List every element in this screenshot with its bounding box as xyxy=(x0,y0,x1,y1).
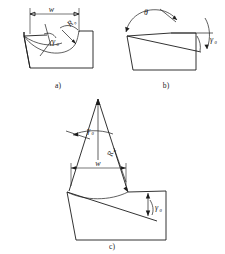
panel-c-label-rake-bottom: γ xyxy=(155,203,159,212)
panel-c-rake-arrow-up xyxy=(146,193,150,198)
panel-a-left-flank xyxy=(24,36,30,68)
panel-b-top-face xyxy=(127,33,171,36)
cutting-tool-geometry-figure: w R n γ 0 a) γ 0 xyxy=(0,0,225,254)
panel-b-label-rake-group: γ 0 xyxy=(210,35,218,45)
panel-c-tool-body xyxy=(67,191,166,240)
panel-b-label-theta: θ xyxy=(144,8,148,17)
figure-canvas: w R n γ 0 a) γ 0 xyxy=(0,0,225,254)
panel-c-apex-arrow xyxy=(96,99,101,105)
panel-c: γ 0 R n w γ 0 c) xyxy=(66,99,166,251)
panel-b-theta-radial xyxy=(160,9,176,22)
panel-c-label-rake-top-sub: 0 xyxy=(92,131,95,136)
panel-a-label-radius-group: R n xyxy=(65,16,79,30)
panel-b-theta-arc xyxy=(126,10,177,32)
panel-c-caption: c) xyxy=(109,242,115,251)
panel-c-top-edge-right xyxy=(128,191,166,192)
panel-c-rake-arc-bottom xyxy=(150,200,153,215)
panel-b-caption: b) xyxy=(163,81,170,90)
panel-a-label-rake-group: γ 0 xyxy=(52,37,60,47)
panel-a-caption: a) xyxy=(55,81,61,90)
panel-c-cone-right xyxy=(98,99,128,192)
panel-b-rake-arc-inner xyxy=(197,36,200,51)
panel-c-rake-arrow-down xyxy=(146,211,150,216)
panel-b-label-rake: γ xyxy=(210,35,214,44)
panel-c-label-rake-top-group: γ 0 xyxy=(87,126,95,136)
panel-c-cone-arrow xyxy=(123,186,128,192)
panel-a: w R n γ 0 a) xyxy=(24,5,93,90)
panel-c-dim-arrow-left xyxy=(71,166,76,169)
panel-c-cone-left xyxy=(69,99,98,191)
panel-b-rake-arc-outer xyxy=(205,18,209,49)
panel-c-rake-face-line xyxy=(67,192,157,221)
panel-a-tool-body xyxy=(24,31,93,68)
panel-b: γ 0 θ b) xyxy=(125,8,217,90)
panel-a-top-left-edge xyxy=(24,35,47,36)
panel-c-label-radius-group: R n xyxy=(105,147,117,159)
panel-b-label-rake-sub: 0 xyxy=(215,40,218,45)
panel-a-rake-cross-line xyxy=(40,40,52,56)
panel-c-label-width: w xyxy=(95,159,101,168)
panel-c-label-rake-bottom-sub: 0 xyxy=(160,208,163,213)
panel-a-label-width: w xyxy=(49,5,55,14)
panel-b-rake-face xyxy=(127,36,201,52)
panel-c-label-rake-bottom-group: γ 0 xyxy=(155,203,163,213)
